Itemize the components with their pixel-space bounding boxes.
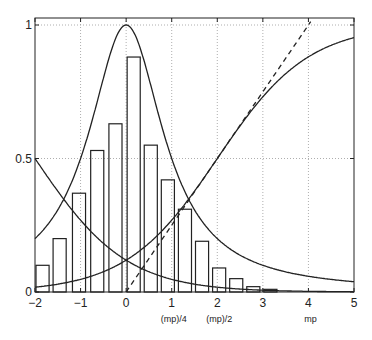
histogram-bar <box>72 193 85 292</box>
histogram-bar <box>91 150 104 292</box>
x-annotation-label: (mp)/2 <box>206 314 232 324</box>
axes-frame <box>35 18 354 292</box>
decreasing-sigmoid-curve <box>35 159 354 292</box>
histogram-bar <box>36 265 49 292</box>
x-annotation-label: (mp)/4 <box>161 314 187 324</box>
curves <box>35 22 354 292</box>
histogram-bars <box>36 57 277 292</box>
x-tick-label: 1 <box>168 296 175 310</box>
bell-curve-curve <box>35 25 354 282</box>
x-axis-ticks: −2−1012345 <box>28 18 358 310</box>
x-tick-label: −1 <box>74 296 88 310</box>
increasing-sigmoid-curve <box>35 38 354 288</box>
x-tick-label: 3 <box>260 296 267 310</box>
y-tick-label: 1 <box>25 18 32 32</box>
x-tick-label: 0 <box>123 296 130 310</box>
x-tick-label: 2 <box>214 296 221 310</box>
histogram-bar <box>178 209 191 292</box>
x-tick-label: 5 <box>351 296 358 310</box>
histogram-bar <box>127 57 140 292</box>
x-tick-label: 4 <box>305 296 312 310</box>
y-tick-label: 0 <box>25 285 32 299</box>
histogram-bar <box>230 279 243 292</box>
x-axis-annotations: (mp)/4(mp)/2mp <box>161 314 317 324</box>
tangent-line-curve <box>126 22 311 292</box>
histogram-bar <box>161 180 174 292</box>
chart: −2−1012345 00.51 (mp)/4(mp)/2mp <box>0 0 372 340</box>
y-tick-label: 0.5 <box>15 152 32 166</box>
grid-lines <box>35 18 354 292</box>
x-annotation-label: mp <box>304 314 317 324</box>
